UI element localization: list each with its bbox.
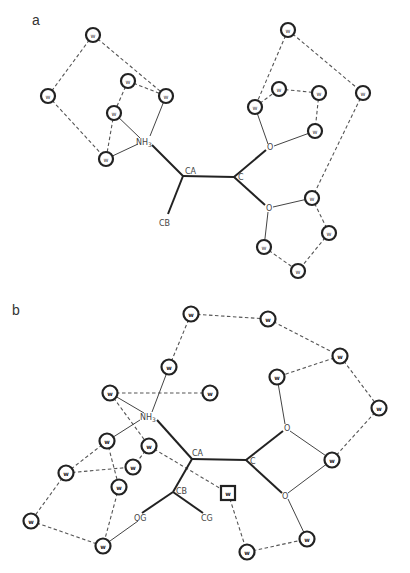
- water-molecule: w: [356, 86, 370, 100]
- svg-text:w: w: [116, 484, 122, 491]
- panel-b: b: [12, 302, 387, 560]
- svg-text:w: w: [207, 390, 213, 397]
- svg-text:w: w: [225, 490, 231, 497]
- svg-text:w: w: [329, 457, 335, 464]
- svg-text:w: w: [286, 27, 291, 34]
- svg-text:w: w: [188, 311, 194, 318]
- svg-text:w: w: [164, 93, 169, 100]
- water-molecule: w: [100, 434, 115, 449]
- svg-text:w: w: [104, 438, 110, 445]
- svg-text:w: w: [262, 244, 267, 251]
- atom-cb-label: CB: [176, 487, 187, 496]
- svg-text:w: w: [304, 536, 310, 543]
- atom-og-label: OG: [134, 514, 147, 523]
- water-molecule: w: [300, 532, 315, 547]
- water-molecule: w: [159, 89, 173, 103]
- water-molecule: w: [96, 539, 111, 554]
- water-molecule: w: [142, 439, 157, 454]
- svg-text:w: w: [313, 128, 318, 135]
- panel-a: a: [32, 12, 370, 278]
- atom-cb-label: CB: [159, 219, 170, 228]
- svg-text:w: w: [107, 390, 113, 397]
- water-molecule: w: [270, 370, 285, 385]
- water-molecule: w: [308, 124, 322, 138]
- svg-text:w: w: [337, 353, 343, 360]
- svg-text:w: w: [104, 156, 109, 163]
- svg-text:w: w: [112, 110, 117, 117]
- water-molecule: w: [126, 460, 141, 475]
- water-molecule: w: [107, 106, 121, 120]
- water-molecule: w: [184, 307, 199, 322]
- water-molecule: w: [59, 466, 74, 481]
- water-molecule: w: [162, 360, 177, 375]
- atom-nh3-label: NH3: [136, 138, 152, 148]
- atom-o2-label: O: [282, 492, 288, 501]
- atom-ca-label: CA: [185, 167, 197, 176]
- svg-text:w: w: [317, 90, 322, 97]
- svg-text:w: w: [91, 32, 96, 39]
- water-molecule: w: [86, 28, 100, 42]
- atom-o2-label: O: [266, 204, 272, 213]
- atom-c-label: C: [238, 173, 244, 182]
- svg-text:w: w: [63, 470, 69, 477]
- water-molecule: w: [99, 152, 113, 166]
- svg-text:w: w: [146, 443, 152, 450]
- svg-text:w: w: [253, 104, 258, 111]
- svg-text:w: w: [130, 464, 136, 471]
- water-molecule: w: [103, 386, 118, 401]
- water-molecule: w: [257, 240, 271, 254]
- svg-text:w: w: [166, 364, 172, 371]
- special-water-square: w: [221, 486, 235, 500]
- atom-c-label: C: [250, 457, 256, 466]
- svg-text:w: w: [126, 78, 131, 85]
- water-molecule: w: [272, 82, 286, 96]
- water-molecule: w: [121, 74, 135, 88]
- water-molecule: w: [24, 514, 39, 529]
- svg-text:w: w: [361, 90, 366, 97]
- svg-text:w: w: [265, 316, 271, 323]
- water-molecule: w: [281, 23, 295, 37]
- atom-o1-label: O: [284, 424, 290, 433]
- water-molecule: w: [112, 480, 127, 495]
- water-molecule: w: [240, 545, 255, 560]
- svg-text:w: w: [310, 195, 315, 202]
- svg-text:w: w: [327, 230, 332, 237]
- svg-text:w: w: [28, 518, 34, 525]
- water-molecule: w: [41, 89, 55, 103]
- water-molecule: w: [333, 349, 348, 364]
- water-molecule: w: [305, 191, 319, 205]
- hydration-diagram: a: [0, 0, 410, 573]
- water-molecule: w: [261, 312, 276, 327]
- panel-a-waters: w w w w w w w w w w w w w w w w: [41, 23, 370, 278]
- atom-ca-label: CA: [192, 449, 204, 458]
- panel-a-label: a: [32, 12, 40, 28]
- svg-text:w: w: [296, 268, 301, 275]
- svg-text:w: w: [376, 405, 382, 412]
- svg-text:w: w: [244, 549, 250, 556]
- panel-b-label: b: [12, 302, 20, 318]
- water-molecule: w: [203, 386, 218, 401]
- atom-cg-label: CG: [201, 514, 213, 523]
- panel-a-backbone: [152, 145, 266, 214]
- water-molecule: w: [312, 86, 326, 100]
- svg-text:w: w: [46, 93, 51, 100]
- water-molecule: w: [248, 100, 262, 114]
- water-molecule: w: [291, 264, 305, 278]
- panel-b-backbone: [142, 420, 283, 513]
- panel-a-thin-bonds: [106, 96, 315, 247]
- atom-nh3-label: NH3: [140, 413, 156, 423]
- svg-text:w: w: [277, 86, 282, 93]
- water-molecule: w: [372, 401, 387, 416]
- svg-text:w: w: [274, 374, 280, 381]
- water-molecule: w: [322, 226, 336, 240]
- atom-o1-label: O: [267, 143, 273, 152]
- panel-a-hbonds: [48, 30, 363, 271]
- water-molecule: w: [325, 453, 340, 468]
- svg-text:w: w: [100, 543, 106, 550]
